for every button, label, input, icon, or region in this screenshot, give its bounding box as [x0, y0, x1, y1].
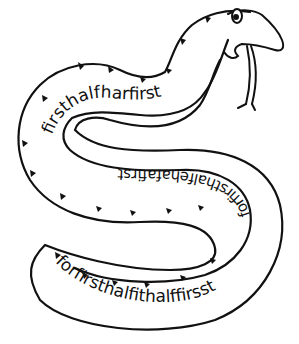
middle-body-text: forfirsthalfehafafirst [117, 165, 254, 219]
snake-illustration: firsthalfharfirst forfirsthalfehafafirst… [0, 0, 299, 344]
upper-body-text: firsthalfharfirst [37, 81, 163, 137]
snake-head [224, 9, 283, 110]
